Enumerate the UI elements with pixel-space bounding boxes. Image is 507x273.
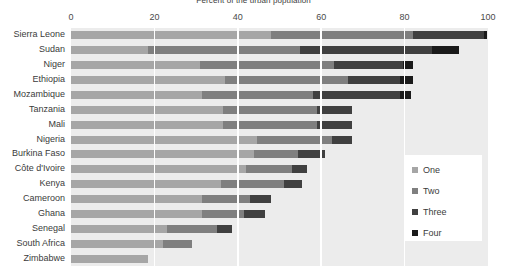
bar-row bbox=[71, 136, 488, 144]
category-label: Côte d'Ivoire bbox=[15, 164, 65, 173]
bar-segment-three bbox=[292, 165, 307, 173]
bar-segment-one bbox=[71, 121, 223, 129]
bar-row bbox=[71, 46, 488, 54]
bar-segment-one bbox=[71, 165, 246, 173]
legend-swatch-icon bbox=[412, 230, 418, 236]
bar-row bbox=[71, 255, 488, 263]
category-label: Senegal bbox=[32, 224, 65, 233]
category-label: Ethiopia bbox=[32, 75, 65, 84]
bar-row bbox=[71, 106, 488, 114]
gridline-60 bbox=[320, 28, 322, 266]
bar-row bbox=[71, 91, 488, 99]
bar-segment-four bbox=[400, 91, 410, 99]
legend-item-two[interactable]: Two bbox=[412, 186, 440, 196]
bar-row bbox=[71, 121, 488, 129]
bar-segment-one bbox=[71, 195, 202, 203]
bar-segment-one bbox=[71, 76, 225, 84]
x-tick-label-80: 80 bbox=[400, 12, 410, 22]
category-label: Burkina Faso bbox=[12, 149, 65, 158]
y-axis-category-labels: Sierra LeoneSudanNigerEthiopiaMozambique… bbox=[0, 28, 69, 266]
bar-segment-three bbox=[332, 136, 353, 144]
chart-legend: OneTwoThreeFour bbox=[404, 155, 482, 241]
category-label: South Africa bbox=[16, 239, 65, 248]
legend-item-three[interactable]: Three bbox=[412, 207, 447, 217]
x-tick-label-20: 20 bbox=[149, 12, 159, 22]
bar-segment-one bbox=[71, 240, 163, 248]
category-label: Zimbabwe bbox=[23, 254, 65, 263]
gridline-20 bbox=[154, 28, 156, 266]
bar-segment-one bbox=[71, 91, 202, 99]
x-axis-tick-labels: 020406080100 bbox=[0, 12, 507, 26]
bar-segment-three bbox=[217, 225, 232, 233]
bar-segment-three bbox=[317, 121, 352, 129]
category-label: Niger bbox=[43, 60, 65, 69]
legend-label: One bbox=[423, 165, 440, 175]
legend-swatch-icon bbox=[412, 188, 418, 194]
bar-segment-three bbox=[244, 210, 265, 218]
bar-segment-one bbox=[71, 136, 257, 144]
bar-segment-two bbox=[200, 61, 333, 69]
bar-segment-two bbox=[163, 240, 192, 248]
bar-segment-one bbox=[71, 31, 271, 39]
bar-segment-one bbox=[71, 61, 200, 69]
bar-segment-three bbox=[250, 195, 271, 203]
bar-segment-two bbox=[221, 180, 284, 188]
bar-row bbox=[71, 76, 488, 84]
x-tick-label-60: 60 bbox=[316, 12, 326, 22]
bar-segment-one bbox=[71, 150, 254, 158]
bar-segment-two bbox=[202, 195, 250, 203]
bar-segment-three bbox=[348, 76, 400, 84]
bar-segment-one bbox=[71, 180, 221, 188]
bar-segment-three bbox=[413, 31, 484, 39]
category-label: Mali bbox=[48, 120, 65, 129]
chart-title: Percent of the urban population bbox=[0, 0, 507, 5]
bar-segment-two bbox=[148, 46, 300, 54]
legend-swatch-icon bbox=[412, 209, 418, 215]
bar-segment-one bbox=[71, 46, 148, 54]
bar-row bbox=[71, 31, 488, 39]
x-tick-label-40: 40 bbox=[233, 12, 243, 22]
bar-segment-two bbox=[271, 31, 413, 39]
bar-segment-one bbox=[71, 106, 223, 114]
legend-label: Three bbox=[423, 207, 447, 217]
x-tick-label-0: 0 bbox=[68, 12, 73, 22]
legend-item-four[interactable]: Four bbox=[412, 228, 442, 238]
bar-segment-four bbox=[400, 76, 413, 84]
x-tick-label-100: 100 bbox=[480, 12, 495, 22]
category-label: Tanzania bbox=[29, 105, 65, 114]
gridline-40 bbox=[237, 28, 239, 266]
category-label: Sudan bbox=[39, 45, 65, 54]
category-label: Sierra Leone bbox=[13, 30, 65, 39]
legend-label: Two bbox=[423, 186, 440, 196]
bar-segment-four bbox=[432, 46, 459, 54]
legend-swatch-icon bbox=[412, 167, 418, 173]
bar-segment-two bbox=[202, 91, 313, 99]
legend-label: Four bbox=[423, 228, 442, 238]
bar-segment-three bbox=[313, 91, 401, 99]
category-label: Cameroon bbox=[23, 194, 65, 203]
bar-segment-three bbox=[334, 61, 403, 69]
bar-segment-one bbox=[71, 210, 202, 218]
bar-segment-three bbox=[284, 180, 303, 188]
legend-item-one[interactable]: One bbox=[412, 165, 440, 175]
category-label: Mozambique bbox=[13, 90, 65, 99]
category-label: Kenya bbox=[39, 179, 65, 188]
bar-segment-one bbox=[71, 225, 167, 233]
bar-row bbox=[71, 61, 488, 69]
bar-segment-three bbox=[317, 106, 352, 114]
bar-segment-four bbox=[484, 31, 487, 39]
bar-segment-two bbox=[246, 165, 292, 173]
bar-segment-two bbox=[225, 76, 348, 84]
category-label: Ghana bbox=[38, 209, 65, 218]
stacked-bar-chart: Percent of the urban population 02040608… bbox=[0, 0, 507, 273]
category-label: Nigeria bbox=[36, 135, 65, 144]
bar-segment-two bbox=[254, 150, 298, 158]
bar-segment-one bbox=[71, 255, 148, 263]
bar-segment-two bbox=[167, 225, 217, 233]
